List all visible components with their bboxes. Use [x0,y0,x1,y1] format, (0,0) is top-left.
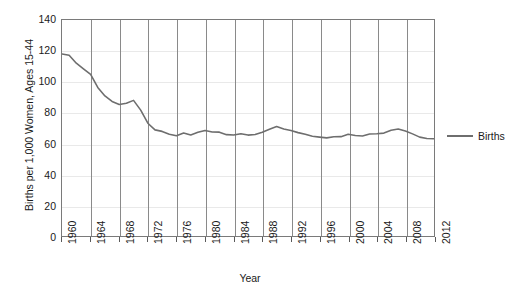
x-axis-tick-label-group: 1960196419681972197619801984198819921996… [0,0,519,298]
x-axis-tick-label: 1976 [181,204,193,244]
x-axis-tick-label: 2012 [440,204,452,244]
x-axis-tick-label: 1992 [296,204,308,244]
line-chart-figure: Births per 1,000 Women, Ages 15-44 02040… [0,0,519,298]
legend-item-label: Births [478,130,505,142]
x-axis-tick-label: 1980 [210,204,222,244]
x-axis-tick-label: 2004 [382,204,394,244]
x-axis-tick-label: 1972 [152,204,164,244]
x-axis-tick-label: 1964 [95,204,107,244]
chart-legend: Births [447,130,505,142]
x-axis-tick-label: 1988 [267,204,279,244]
x-axis-tick-label: 1984 [239,204,251,244]
x-axis-tick-label: 2008 [411,204,423,244]
x-axis-tick-label: 1996 [325,204,337,244]
x-axis-title: Year [200,272,300,284]
x-axis-tick-label: 2000 [354,204,366,244]
x-axis-tick-label: 1960 [66,204,78,244]
x-axis-tick-label: 1968 [124,204,136,244]
legend-line-icon [447,135,473,137]
